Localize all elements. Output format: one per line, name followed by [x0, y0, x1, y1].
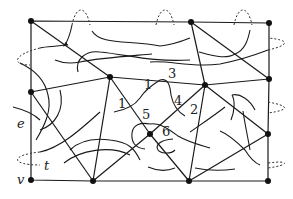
vertices	[28, 18, 272, 184]
vertex	[266, 20, 272, 26]
vertex	[28, 89, 34, 95]
vertex	[147, 131, 153, 137]
label-6: 6	[162, 124, 170, 139]
label-5: 5	[142, 107, 150, 122]
label-3: 3	[168, 66, 176, 81]
vertex	[188, 19, 194, 25]
label-v: v	[17, 172, 25, 187]
vertex	[266, 76, 272, 82]
vertex	[265, 131, 271, 137]
vertex	[107, 74, 113, 80]
vertex	[90, 178, 96, 184]
vertex	[202, 82, 208, 88]
vertex	[265, 178, 271, 184]
label-1a: 1	[118, 96, 126, 111]
vertex	[186, 178, 192, 184]
graph-diagram: e t v 1 1 3 4 2 5 6	[0, 0, 293, 199]
graph-edges	[31, 21, 269, 181]
label-e: e	[17, 116, 25, 131]
vertex	[28, 18, 34, 24]
label-1b: 1	[144, 77, 152, 92]
transition-curves	[13, 25, 268, 170]
vertex-v	[28, 177, 34, 183]
label-2: 2	[190, 102, 198, 117]
label-4: 4	[174, 93, 182, 108]
label-t: t	[44, 158, 50, 173]
